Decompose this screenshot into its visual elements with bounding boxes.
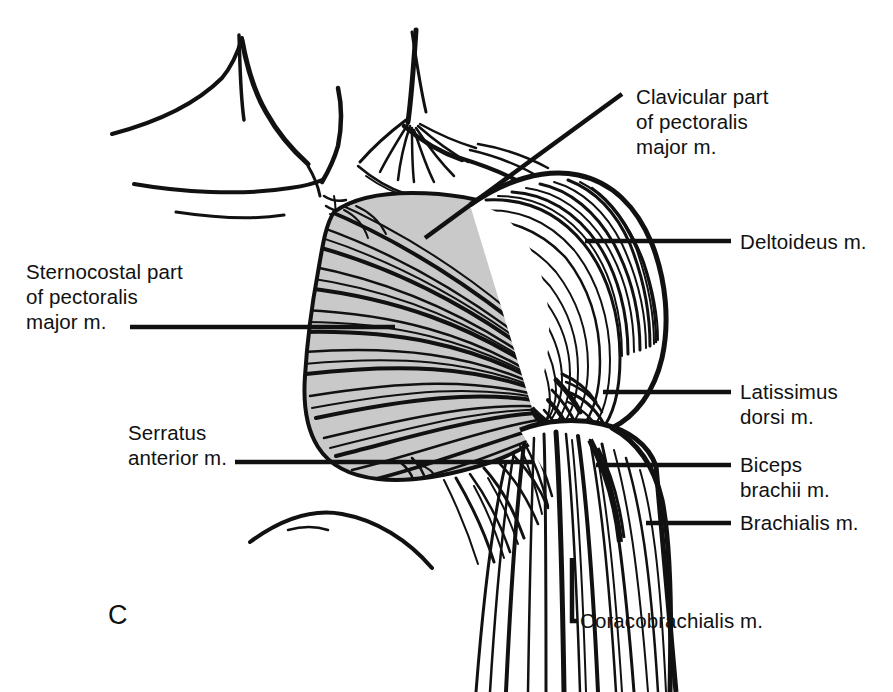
lower-ribs-contour [250, 512, 432, 568]
label-brachialis: Brachialis m. [740, 510, 859, 535]
label-latissimus-dorsi: Latissimus dorsi m. [740, 379, 838, 429]
label-deltoideus: Deltoideus m. [740, 229, 867, 254]
anatomical-figure: Clavicular part of pectoralis major m. D… [0, 0, 893, 692]
label-coracobrachialis: Coracobrachialis m. [580, 608, 763, 633]
sternal-notch [322, 88, 346, 220]
label-biceps-brachii: Biceps brachii m. [740, 452, 830, 502]
label-sternocostal-part-of-pectoralis-major: Sternocostal part of pectoralis major m. [26, 259, 183, 334]
torso-outline [112, 35, 322, 218]
label-serratus-anterior: Serratus anterior m. [128, 420, 227, 470]
panel-letter: C [108, 600, 128, 631]
trapezius-fibers [358, 30, 548, 198]
label-clavicular-part-of-pectoralis-major: Clavicular part of pectoralis major m. [636, 84, 769, 159]
